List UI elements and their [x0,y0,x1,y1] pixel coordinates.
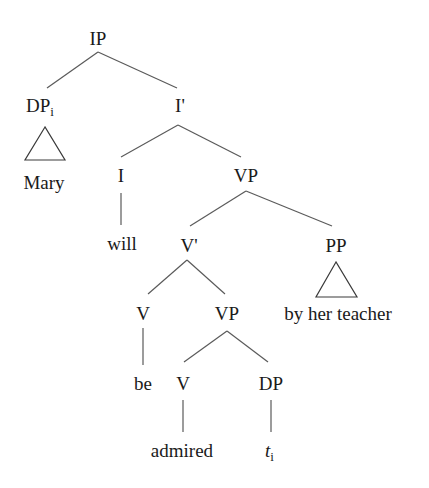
edge-vbar-v [148,260,187,294]
node-dp-subject: DPi [26,95,54,119]
node-v-be: V [136,303,150,324]
edge-vp-dp [227,331,268,362]
triangle-pp-by-her-teacher [316,262,357,297]
node-will: will [107,233,137,254]
edge-vp-vbar [190,191,246,226]
edge-ip-ibar [98,52,177,88]
node-mary: Mary [23,172,65,193]
node-v-admired: V [176,373,190,394]
node-trace: ti [265,440,274,464]
node-admired: admired [151,440,214,461]
triangle-dp-mary [25,127,65,160]
node-dp-subject-index: i [50,104,54,119]
node-pp: PP [325,235,346,256]
node-ip: IP [90,28,107,49]
node-trace-index: i [270,449,274,464]
edge-vp-pp [246,191,332,226]
node-vp-lower: VP [215,303,239,324]
node-dp-object: DP [259,373,283,394]
node-dp-subject-label: DP [26,95,50,116]
node-vp-upper: VP [234,165,258,186]
node-be: be [134,373,152,394]
node-i-head: I [118,165,124,186]
syntax-tree: IP DPi Mary I' I will VP V' PP by her te… [0,0,429,488]
node-i-bar: I' [175,95,185,116]
edge-ibar-vp [178,125,241,157]
edge-vbar-vp [187,260,225,294]
node-v-bar: V' [180,235,197,256]
edge-ip-dp [47,52,98,88]
edge-vp-v [184,331,227,362]
edge-ibar-i [121,125,178,157]
node-by-her-teacher: by her teacher [284,303,392,324]
